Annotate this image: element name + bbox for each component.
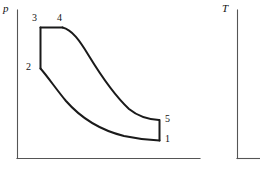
process-2-to-1 (41, 69, 160, 141)
state-label-1: 1 (165, 134, 170, 144)
process-4-to-5 (63, 28, 160, 121)
t-diagram-svg (205, 0, 260, 171)
state-label-4: 4 (57, 13, 62, 23)
temperature-axis-label: T (222, 3, 228, 14)
state-label-5: 5 (165, 114, 170, 124)
pv-diagram-svg (0, 0, 205, 171)
temperature-panel (205, 0, 260, 171)
pressure-volume-panel: p 3 4 2 5 1 (0, 0, 205, 171)
figure-canvas: p 3 4 2 5 1 T (0, 0, 260, 171)
state-label-3: 3 (32, 13, 37, 23)
state-label-2: 2 (26, 62, 31, 72)
t-axes (237, 10, 260, 159)
pressure-axis-label: p (3, 3, 9, 14)
pv-cycle-curves (41, 28, 160, 141)
